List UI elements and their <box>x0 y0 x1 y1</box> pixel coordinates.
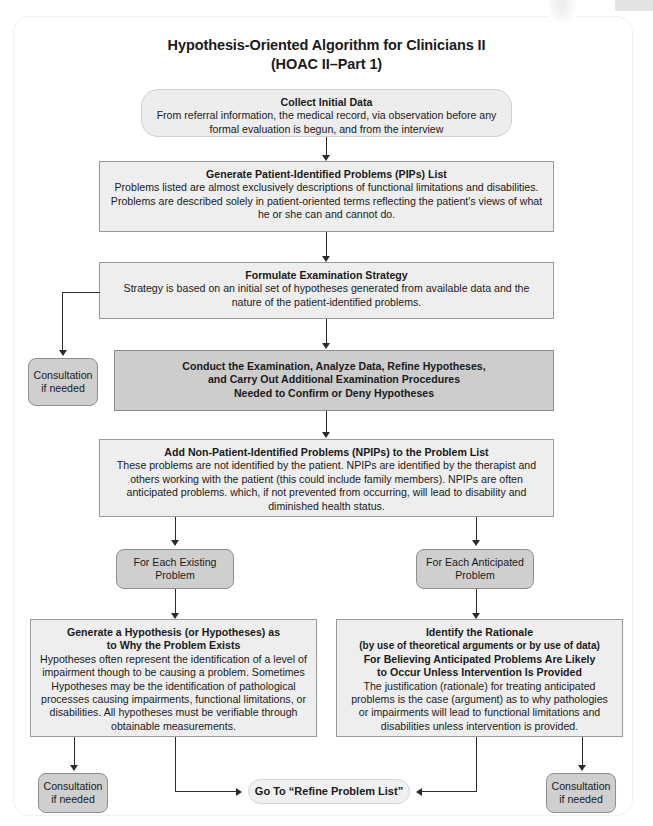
title-line-2: (HOAC II–Part 1) <box>271 56 382 72</box>
node-npips-body: These problems are not identified by the… <box>108 459 545 513</box>
node-for-each-existing-problem[interactable]: For Each Existing Problem <box>116 549 234 589</box>
node-collect-initial-data[interactable]: Collect Initial Data From referral infor… <box>141 89 512 137</box>
title-line-1: Hypothesis-Oriented Algorithm for Clinic… <box>168 37 486 53</box>
node-consult1-line-2: if needed <box>41 382 85 395</box>
edge-hypothesis-to-consult2 <box>74 737 75 768</box>
node-consult2-line-1: Consultation <box>44 780 103 793</box>
node-collect-header: Collect Initial Data <box>150 96 503 109</box>
scan-artifact-smudge <box>548 0 576 22</box>
node-generate-pips-list[interactable]: Generate Patient-Identified Problems (PI… <box>99 161 554 232</box>
edge-hypothesis-to-goto-arrowhead <box>236 788 242 796</box>
node-rationale-header-4: to Occur Unless Intervention Is Provided <box>345 666 614 679</box>
node-npips-header: Add Non-Patient-Identified Problems (NPI… <box>108 446 545 459</box>
edge-npips-to-anticipated-arrowhead <box>472 540 480 546</box>
node-conduct-line-1: Conduct the Examination, Analyze Data, R… <box>123 360 545 373</box>
node-anticipated-line-2: Problem <box>455 569 494 582</box>
node-consult1-line-1: Consultation <box>34 369 93 382</box>
node-conduct-line-3: Needed to Confirm or Deny Hypotheses <box>123 387 545 400</box>
edge-rationale-to-goto-arrowhead <box>416 788 422 796</box>
edge-rationale-to-consult3-arrowhead <box>578 765 586 771</box>
edge-existing-to-hypothesis <box>175 589 176 616</box>
node-go-to-refine-problem-list[interactable]: Go To “Refine Problem List” <box>248 779 410 804</box>
node-rationale-header-2: (by use of theoretical arguments or by u… <box>345 639 614 652</box>
edge-rationale-to-goto-vertical <box>476 737 477 792</box>
node-rationale-header-3: For Believing Anticipated Problems Are L… <box>345 653 614 666</box>
node-strategy-body: Strategy is based on an initial set of h… <box>108 282 545 309</box>
edge-strategy-to-consult1-horizontal <box>62 292 100 293</box>
node-consult3-line-1: Consultation <box>552 780 611 793</box>
node-strategy-header: Formulate Examination Strategy <box>108 269 545 282</box>
edge-strategy-to-conduct-arrowhead <box>322 343 330 349</box>
edge-strategy-to-conduct <box>326 319 327 346</box>
edge-anticipated-to-rationale <box>476 589 477 616</box>
edge-pips-to-strategy <box>326 232 327 259</box>
node-for-each-anticipated-problem[interactable]: For Each Anticipated Problem <box>416 549 534 589</box>
node-hypothesis-body: Hypotheses often represent the identific… <box>39 653 308 733</box>
node-consultation-if-needed-1[interactable]: Consultation if needed <box>28 358 98 406</box>
edge-hypothesis-to-goto-horizontal <box>175 791 237 792</box>
diagram-canvas: Hypothesis-Oriented Algorithm for Clinic… <box>0 0 653 826</box>
node-add-npips[interactable]: Add Non-Patient-Identified Problems (NPI… <box>99 439 554 517</box>
node-pips-header: Generate Patient-Identified Problems (PI… <box>108 168 545 181</box>
scan-artifact-corner <box>615 0 653 11</box>
edge-rationale-to-goto-horizontal <box>422 791 476 792</box>
node-conduct-line-2: and Carry Out Additional Examination Pro… <box>123 373 545 386</box>
edge-strategy-to-consult1-vertical <box>62 292 63 353</box>
edge-hypothesis-to-goto-vertical <box>175 737 176 792</box>
node-rationale-header-1: Identify the Rationale <box>345 626 614 639</box>
edge-hypothesis-to-consult2-arrowhead <box>70 765 78 771</box>
node-hypothesis-header-2: to Why the Problem Exists <box>39 639 308 652</box>
node-existing-line-2: Problem <box>155 569 194 582</box>
node-pips-body: Problems listed are almost exclusively d… <box>108 181 545 221</box>
node-rationale-body: The justification (rationale) for treati… <box>345 680 614 734</box>
node-hypothesis-header-1: Generate a Hypothesis (or Hypotheses) as <box>39 626 308 639</box>
node-goto-label: Go To “Refine Problem List” <box>255 785 403 798</box>
edge-conduct-to-npips-arrowhead <box>322 432 330 438</box>
edge-strategy-to-consult1-arrowhead <box>59 350 67 356</box>
page-title: Hypothesis-Oriented Algorithm for Clinic… <box>0 36 653 74</box>
edge-rationale-to-consult3 <box>582 737 583 768</box>
node-consult2-line-2: if needed <box>51 793 95 806</box>
node-consultation-if-needed-3[interactable]: Consultation if needed <box>546 773 616 813</box>
node-formulate-examination-strategy[interactable]: Formulate Examination Strategy Strategy … <box>99 262 554 319</box>
node-collect-body: From referral information, the medical r… <box>150 109 503 136</box>
node-identify-rationale[interactable]: Identify the Rationale (by use of theore… <box>336 619 623 737</box>
node-anticipated-line-1: For Each Anticipated <box>426 556 524 569</box>
node-existing-line-1: For Each Existing <box>133 556 216 569</box>
node-generate-hypothesis[interactable]: Generate a Hypothesis (or Hypotheses) as… <box>30 619 317 737</box>
node-consultation-if-needed-2[interactable]: Consultation if needed <box>38 773 108 813</box>
node-conduct-examination[interactable]: Conduct the Examination, Analyze Data, R… <box>114 350 554 411</box>
node-consult3-line-2: if needed <box>559 793 603 806</box>
edge-npips-to-existing-arrowhead <box>171 540 179 546</box>
